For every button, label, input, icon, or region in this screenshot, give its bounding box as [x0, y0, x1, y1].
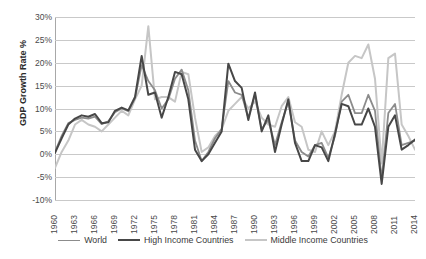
gridline [55, 200, 415, 201]
legend-label: High Income Countries [144, 236, 233, 245]
y-axis-tick-label: 20% [4, 59, 52, 68]
x-axis-tick-label: 1969 [110, 215, 119, 234]
x-axis-tick-label: 1975 [150, 215, 159, 234]
x-axis-tick-label: 2002 [330, 215, 339, 234]
legend-label: Middle Income Countries [271, 236, 368, 245]
x-axis-tick-label: 1984 [210, 215, 219, 234]
y-axis-tick-label: -10% [4, 196, 52, 205]
x-axis-tick-label: 1960 [50, 215, 59, 234]
x-axis-tick-label: 1990 [250, 215, 259, 234]
x-axis-tick-label: 2014 [410, 215, 419, 234]
y-axis-tick-label: 0% [4, 150, 52, 159]
x-axis-tick-label: 1987 [230, 215, 239, 234]
legend-item-high-income-countries[interactable]: High Income Countries [118, 236, 233, 245]
x-axis-tick-label: 1966 [90, 215, 99, 234]
x-axis-tick-label: 1978 [170, 215, 179, 234]
legend-swatch-icon [118, 239, 140, 241]
series-lines [55, 17, 415, 200]
legend-swatch-icon [58, 240, 80, 241]
x-axis-tick-label: 2011 [390, 216, 399, 234]
legend-swatch-icon [245, 239, 267, 241]
y-axis-tick-label: 15% [4, 82, 52, 91]
x-axis-ticks: 1960196319661969197219751978198119841987… [55, 202, 415, 234]
x-axis-tick-label: 1963 [70, 215, 79, 234]
x-axis-tick-label: 1993 [270, 215, 279, 234]
chart-legend: WorldHigh Income CountriesMiddle Income … [0, 236, 426, 245]
y-axis-tick-label: 25% [4, 36, 52, 45]
series-line-middle-income-countries [55, 26, 415, 168]
legend-item-world[interactable]: World [58, 236, 107, 245]
legend-item-middle-income-countries[interactable]: Middle Income Countries [245, 236, 368, 245]
gdp-growth-line-chart: 30%25%20%15%10%5%0%-5%-10% GDP Growth Ra… [0, 0, 426, 259]
x-axis-tick-label: 1996 [290, 215, 299, 234]
y-axis-tick-label: -5% [4, 173, 52, 182]
x-axis-tick-label: 1981 [190, 215, 199, 234]
x-axis-tick-label: 1999 [310, 215, 319, 234]
series-line-high-income-countries [55, 56, 415, 184]
x-axis-tick-label: 2005 [350, 215, 359, 234]
y-axis-tick-label: 30% [4, 13, 52, 22]
legend-label: World [84, 236, 107, 245]
y-axis-tick-label: 10% [4, 105, 52, 114]
y-axis-title: GDP Growth Rate % [18, 8, 28, 158]
x-axis-tick-label: 2008 [370, 215, 379, 234]
x-axis-tick-label: 1972 [130, 215, 139, 234]
y-axis-tick-label: 5% [4, 127, 52, 136]
